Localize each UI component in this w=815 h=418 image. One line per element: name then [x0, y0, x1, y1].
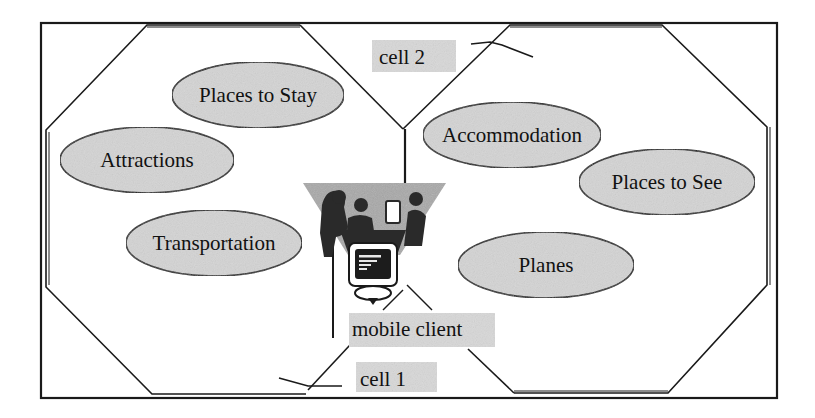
service-label: Planes: [519, 253, 574, 277]
service-label: Accommodation: [442, 123, 582, 147]
mobile-client-label: mobile client: [349, 313, 495, 347]
service-places-to-stay: Places to Stay: [172, 62, 344, 128]
people-at-computer-icon: [303, 183, 446, 305]
service-attractions: Attractions: [60, 127, 234, 193]
service-accommodation: Accommodation: [423, 102, 601, 168]
service-planes: Planes: [458, 232, 634, 298]
client-right-diagonal: [407, 285, 432, 310]
service-label: Transportation: [153, 231, 276, 255]
cell-2-lower-left-diagonal: [468, 349, 514, 393]
svg-text:cell 1: cell 1: [360, 367, 406, 391]
cell-1-lower-right-diagonal: [308, 345, 350, 390]
service-places-to-see: Places to See: [579, 149, 755, 215]
service-transportation: Transportation: [126, 210, 302, 276]
svg-text:mobile client: mobile client: [352, 317, 462, 341]
cell-coverage-diagram: Places to StayAttractionsTransportationA…: [0, 0, 815, 418]
cell-1-handoff-mark: [279, 378, 342, 386]
cell-2-label: cell 2: [372, 40, 456, 72]
service-label: Places to See: [612, 170, 723, 194]
service-label: Places to Stay: [199, 83, 317, 107]
service-label: Attractions: [100, 148, 193, 172]
cell-1-label: cell 1: [356, 362, 437, 392]
svg-text:cell 2: cell 2: [379, 45, 425, 69]
